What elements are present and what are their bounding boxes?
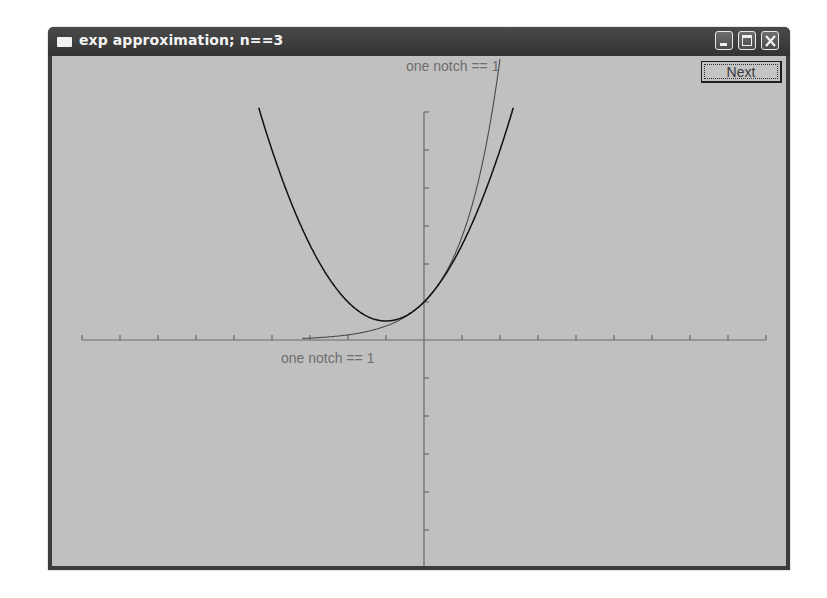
window-title: exp approximation; n==3 (79, 32, 283, 48)
maximize-button[interactable] (738, 31, 756, 50)
approximation-curve (259, 108, 514, 321)
app-window: exp approximation; n==3 one notch == 1 o… (48, 27, 790, 570)
next-button[interactable]: Next (701, 61, 782, 83)
x-axis-label: one notch == 1 (281, 350, 374, 366)
exp-curve (302, 59, 500, 338)
close-button[interactable] (761, 31, 779, 50)
minimize-button[interactable] (715, 31, 733, 50)
axes (82, 112, 766, 566)
next-button-label: Next (727, 64, 756, 80)
window-icon (57, 37, 72, 47)
y-axis-label: one notch == 1 (406, 58, 499, 74)
maximize-icon (742, 35, 752, 46)
minimize-icon (720, 43, 727, 46)
title-bar[interactable]: exp approximation; n==3 (48, 27, 790, 56)
close-icon (762, 32, 780, 51)
plot-area: one notch == 1 one notch == 1 Next (52, 56, 786, 566)
function-plot (52, 56, 786, 566)
